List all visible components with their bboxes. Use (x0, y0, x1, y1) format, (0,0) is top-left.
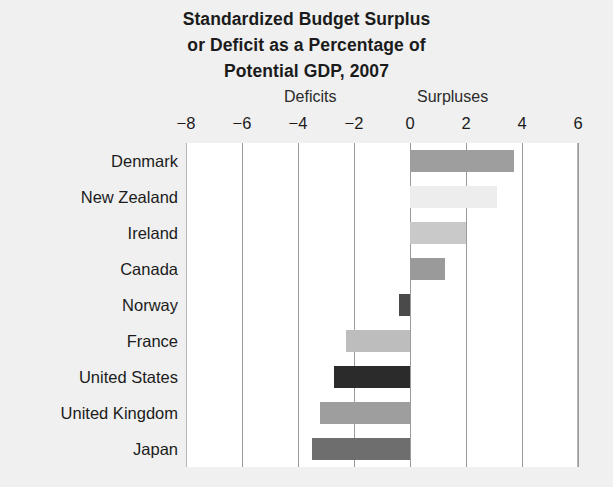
gridline (578, 143, 579, 467)
x-tick-label: −8 (166, 113, 206, 133)
chart-title: Standardized Budget Surplus or Deficit a… (0, 6, 613, 84)
category-label: Canada (0, 259, 178, 279)
bar (399, 294, 410, 316)
x-tick-label: 6 (558, 113, 598, 133)
gridline (522, 143, 523, 467)
category-label: Norway (0, 295, 178, 315)
category-label: Denmark (0, 151, 178, 171)
category-axis-labels: DenmarkNew ZealandIrelandCanadaNorwayFra… (0, 143, 178, 467)
gridline (242, 143, 243, 467)
bar (320, 402, 410, 424)
bar (410, 222, 466, 244)
category-label: Ireland (0, 223, 178, 243)
chart-title-line-3: Potential GDP, 2007 (0, 58, 613, 84)
surpluses-caption: Surpluses (417, 88, 488, 106)
x-tick-label: 2 (446, 113, 486, 133)
chart-title-line-2: or Deficit as a Percentage of (0, 32, 613, 58)
x-tick-label: −4 (278, 113, 318, 133)
category-label: France (0, 331, 178, 351)
x-tick-label: −2 (334, 113, 374, 133)
category-label: New Zealand (0, 187, 178, 207)
bar (334, 366, 410, 388)
x-tick-label: 4 (502, 113, 542, 133)
bar (346, 330, 410, 352)
bar (410, 258, 445, 280)
chart-title-line-1: Standardized Budget Surplus (0, 6, 613, 32)
plot-border-right (577, 143, 578, 467)
bar (410, 150, 514, 172)
plot-border-left (186, 143, 187, 467)
x-axis-tick-labels: −8−6−4−20246 (0, 113, 613, 137)
bar (410, 186, 497, 208)
plot-area (186, 143, 578, 467)
x-tick-label: −6 (222, 113, 262, 133)
x-tick-label: 0 (390, 113, 430, 133)
category-label: United States (0, 367, 178, 387)
bar (312, 438, 410, 460)
deficits-caption: Deficits (284, 88, 336, 106)
category-label: Japan (0, 439, 178, 459)
gridline (298, 143, 299, 467)
category-label: United Kingdom (0, 403, 178, 423)
